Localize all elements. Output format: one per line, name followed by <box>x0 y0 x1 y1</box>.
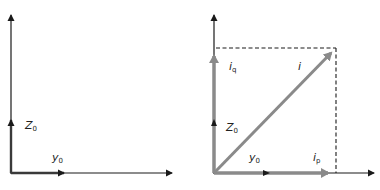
diagram-canvas: Z0 y0 iq i Z0 y0 ip <box>0 0 380 190</box>
right-y0-unit-tick <box>263 170 270 176</box>
iq-label: iq <box>229 60 237 74</box>
right-panel: iq i Z0 y0 ip <box>211 15 374 176</box>
left-panel: Z0 y0 <box>11 15 172 174</box>
ip-label: ip <box>313 151 321 165</box>
left-y0-label: y0 <box>51 151 63 165</box>
right-z0-unit-tick <box>211 119 217 126</box>
i-label: i <box>298 60 301 73</box>
right-y0-label: y0 <box>248 151 260 165</box>
right-z0-label: Z0 <box>225 121 238 135</box>
left-z0-label: Z0 <box>24 119 37 133</box>
